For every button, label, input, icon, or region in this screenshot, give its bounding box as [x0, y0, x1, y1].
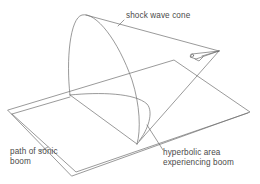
shock-wave-cone: [69, 15, 220, 144]
hyperbolic-area: [70, 94, 150, 144]
label-area-line1: hyperbolic area: [163, 148, 234, 158]
label-hyperbolic-area: hyperbolic area experiencing boom: [163, 148, 234, 167]
label-path-line1: path of sonic: [10, 147, 58, 157]
label-shock-wave-cone: shock wave cone: [126, 11, 190, 21]
label-path-line2: boom: [10, 157, 58, 167]
label-area-line2: experiencing boom: [163, 158, 234, 168]
label-path-of-sonic-boom: path of sonic boom: [10, 147, 58, 166]
